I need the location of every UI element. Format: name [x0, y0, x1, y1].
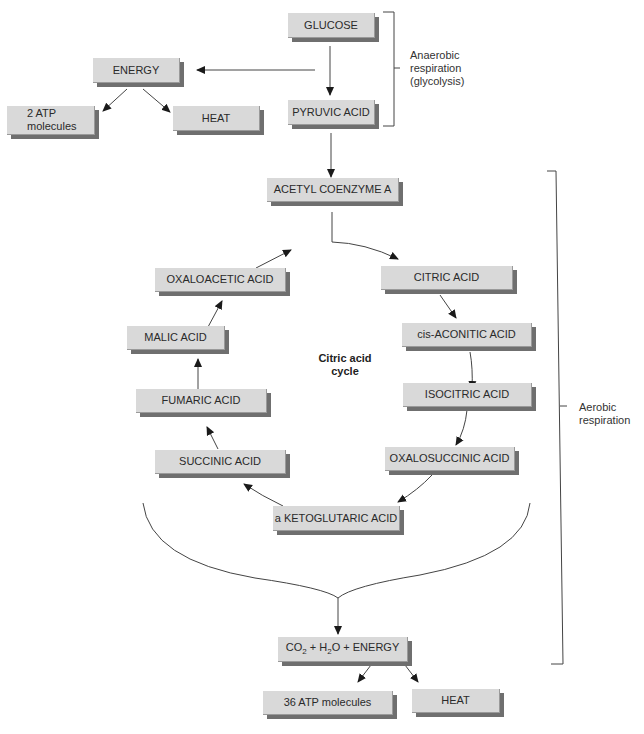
node-co2-h2o-energy: CO2 + H2O + ENERGY	[278, 637, 408, 662]
node-acetyl-coa: ACETYL COENZYME A	[267, 178, 399, 202]
node-isocitric-acid: ISOCITRIC ACID	[403, 383, 532, 407]
node-label: ACETYL COENZYME A	[274, 183, 392, 196]
node-pyruvic-acid: PYRUVIC ACID	[288, 100, 375, 125]
node-label: CO2 + H2O + ENERGY	[286, 641, 399, 658]
node-succinic-acid: SUCCINIC ACID	[155, 450, 286, 474]
node-label-line: molecules	[27, 120, 77, 132]
formula-part: + H	[307, 641, 327, 653]
node-label-line: 2 ATP	[27, 107, 56, 119]
bracket-label-line: Anaerobic	[410, 49, 460, 61]
anaerobic-bracket-label: Anaerobicrespiration(glycolysis)	[410, 49, 464, 88]
node-oxaloacetic-acid: OXALOACETIC ACID	[155, 268, 286, 292]
node-energy-top: ENERGY	[93, 58, 180, 83]
node-36-atp: 36 ATP molecules	[263, 691, 393, 715]
node-oxalosuccinic-acid: OXALOSUCCINIC ACID	[385, 447, 515, 471]
bracket-label-line: (glycolysis)	[410, 75, 464, 87]
node-label: 36 ATP molecules	[284, 696, 372, 709]
cycle-label-line: cycle	[331, 365, 359, 377]
node-label: PYRUVIC ACID	[292, 106, 370, 119]
node-cis-aconitic-acid: cis-ACONITIC ACID	[402, 323, 532, 347]
node-label: HEAT	[202, 112, 231, 125]
node-label: CITRIC ACID	[414, 271, 479, 284]
formula-part: CO	[286, 641, 303, 653]
cycle-label-line: Citric acid	[318, 352, 371, 364]
node-label: SUCCINIC ACID	[179, 455, 261, 468]
node-label: MALIC ACID	[144, 331, 206, 344]
node-2-atp: 2 ATPmolecules	[7, 106, 95, 135]
node-label: OXALOSUCCINIC ACID	[390, 452, 510, 465]
bracket-label-line: respiration	[410, 62, 461, 74]
cycle-label: Citric acidcycle	[300, 352, 390, 378]
node-label: FUMARIC ACID	[162, 394, 241, 407]
node-label: HEAT	[441, 694, 470, 707]
node-malic-acid: MALIC ACID	[127, 326, 225, 350]
node-heat-top: HEAT	[173, 106, 260, 131]
node-label: 2 ATPmolecules	[27, 107, 77, 133]
node-a-ketoglutaric-acid: a KETOGLUTARIC ACID	[273, 506, 400, 531]
node-label: OXALOACETIC ACID	[167, 273, 274, 286]
node-citric-acid: CITRIC ACID	[381, 266, 513, 290]
node-label: GLUCOSE	[304, 19, 358, 32]
node-label: ENERGY	[113, 64, 159, 77]
aerobic-bracket-label: Aerobicrespiration	[579, 401, 630, 427]
node-heat-bottom: HEAT	[412, 689, 500, 713]
node-label: a KETOGLUTARIC ACID	[275, 512, 397, 525]
bracket-label-line: respiration	[579, 414, 630, 426]
node-label: cis-ACONITIC ACID	[417, 328, 515, 341]
node-label: ISOCITRIC ACID	[425, 388, 509, 401]
node-glucose: GLUCOSE	[288, 13, 375, 38]
formula-part: O + ENERGY	[332, 641, 400, 653]
bracket-label-line: Aerobic	[579, 401, 616, 413]
node-fumaric-acid: FUMARIC ACID	[136, 389, 267, 413]
